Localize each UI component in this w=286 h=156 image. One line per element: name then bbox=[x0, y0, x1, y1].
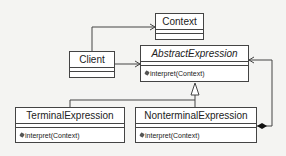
class-name: Context bbox=[156, 14, 203, 30]
operation: interpret(Context) bbox=[150, 70, 204, 77]
class-name: Client bbox=[70, 52, 114, 68]
class-abstract-expression: AbstractExpression interpret(Context) bbox=[140, 45, 249, 82]
generalization-triangle bbox=[191, 83, 199, 95]
class-terminal-expression: TerminalExpression interpret(Context) bbox=[15, 107, 125, 143]
operation: interpret(Context) bbox=[25, 132, 79, 139]
operations-compartment: interpret(Context) bbox=[136, 128, 256, 140]
attributes-compartment bbox=[156, 30, 203, 34]
class-context: Context bbox=[155, 13, 204, 40]
class-nonterminal-expression: NonterminalExpression interpret(Context) bbox=[135, 107, 257, 143]
operation: interpret(Context) bbox=[145, 132, 199, 139]
class-name: TerminalExpression bbox=[16, 108, 124, 124]
class-name: AbstractExpression bbox=[141, 46, 248, 62]
operation-icon bbox=[139, 132, 144, 137]
composition-diamond bbox=[257, 123, 267, 129]
operations-compartment: interpret(Context) bbox=[141, 66, 248, 78]
class-client: Client bbox=[69, 51, 115, 78]
operation-icon bbox=[144, 70, 149, 75]
terminal-generalization bbox=[70, 100, 195, 107]
operations-compartment: interpret(Context) bbox=[16, 128, 124, 140]
attributes-compartment bbox=[70, 68, 114, 72]
operation-icon bbox=[19, 132, 24, 137]
class-name: NonterminalExpression bbox=[136, 108, 256, 124]
